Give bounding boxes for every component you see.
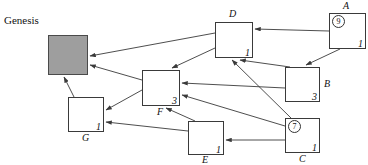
edge-f-to-g xyxy=(106,90,142,110)
node-value-a: 1 xyxy=(358,38,363,50)
node-value-b: 3 xyxy=(312,91,317,103)
node-label-g: G xyxy=(82,132,89,143)
edge-e-to-f xyxy=(166,108,195,121)
edge-a-to-b xyxy=(306,49,340,65)
edge-f-to-genesis xyxy=(90,65,142,80)
node-value-c: 1 xyxy=(312,142,317,154)
node-genesis[interactable] xyxy=(48,35,88,75)
diagram-canvas: Genesis 1D91A3B3F1G1E71C xyxy=(0,0,368,165)
node-value-g: 1 xyxy=(96,121,101,133)
node-label-a: A xyxy=(343,0,349,11)
node-value-e: 1 xyxy=(216,144,221,156)
node-f[interactable]: 3 xyxy=(142,70,180,106)
node-label-f: F xyxy=(157,106,163,117)
node-b[interactable]: 3 xyxy=(285,67,320,102)
node-value-f: 3 xyxy=(172,95,177,107)
node-badge-c: 7 xyxy=(288,120,301,133)
node-d[interactable]: 1 xyxy=(215,22,253,58)
edge-d-to-f xyxy=(172,48,215,68)
node-label-d: D xyxy=(229,8,236,19)
node-e[interactable]: 1 xyxy=(188,121,224,155)
node-a[interactable]: 91 xyxy=(329,13,366,49)
node-c[interactable]: 71 xyxy=(285,118,320,153)
node-label-e: E xyxy=(202,154,208,165)
edge-b-to-d xyxy=(240,60,290,67)
node-label-b: B xyxy=(324,78,330,89)
edge-g-to-genesis xyxy=(64,77,74,97)
edge-e-to-g xyxy=(106,122,188,131)
genesis-label: Genesis xyxy=(4,14,39,26)
edge-a-to-d xyxy=(255,29,329,31)
node-value-d: 1 xyxy=(245,47,250,59)
node-g[interactable]: 1 xyxy=(68,97,104,132)
node-badge-a: 9 xyxy=(332,15,345,28)
node-label-c: C xyxy=(299,153,306,164)
edge-d-to-genesis xyxy=(90,33,215,56)
edge-b-to-f xyxy=(182,83,285,88)
edge-c-to-d xyxy=(232,60,291,118)
